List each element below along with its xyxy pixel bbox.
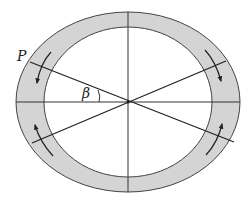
angle-beta-label: β — [82, 86, 90, 100]
center-point — [126, 100, 129, 103]
ring-diagram — [0, 0, 251, 206]
point-p-label: P — [17, 49, 26, 63]
diagram-canvas: P β — [0, 0, 251, 206]
angle-beta-arc — [98, 90, 100, 102]
